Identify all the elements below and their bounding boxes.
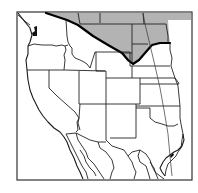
map [0, 0, 198, 193]
shaded-northern-region-east [168, 13, 191, 20]
